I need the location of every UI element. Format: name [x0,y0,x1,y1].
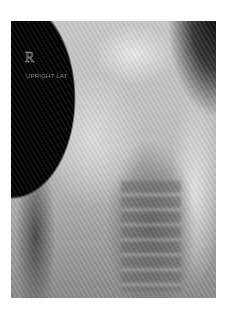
position-label: UPRIGHT LAT [26,73,67,79]
spine-region [121,181,181,291]
side-marker: R [25,51,34,65]
xray-image [11,21,216,298]
